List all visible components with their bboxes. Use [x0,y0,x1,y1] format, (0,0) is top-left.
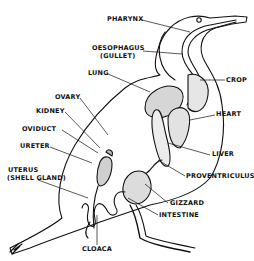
label-proventriculus: PROVENTRICULUS [186,173,254,181]
kidney [97,157,112,186]
heart [168,108,190,148]
label-ovary: OVARY [55,94,80,102]
label-liver: LIVER [212,151,234,159]
leader-pharynx [142,20,190,32]
label-ureter: URETER [20,143,50,151]
label-crop: CROP [226,77,247,85]
label-oviduct: OVIDUCT [22,126,56,134]
label-kidney: KIDNEY [36,108,65,116]
leader-ureter [50,147,92,163]
label-cloaca: CLOACA [82,246,112,254]
label-heart: HEART [216,111,241,119]
leader-heart [190,115,215,120]
leader-oesophagus [143,51,182,54]
gizzard [123,171,151,204]
leader-lung [108,74,150,92]
eye [197,18,201,22]
ovary [106,150,112,156]
leader-oviduct [62,130,98,153]
leader-uterus [38,180,88,198]
leader-liver [168,143,210,155]
liver [152,110,170,166]
label-shell-gland: (SHELL GLAND) [7,175,66,183]
label-gullet: (GULLET) [100,53,135,61]
leader-proventriculus [158,160,185,176]
leader-ovary [80,98,108,135]
label-pharynx: PHARYNX [107,16,143,24]
label-lung: LUNG [88,70,109,78]
label-intestine: INTESTINE [159,212,199,220]
label-gizzard: GIZZARD [170,200,204,208]
